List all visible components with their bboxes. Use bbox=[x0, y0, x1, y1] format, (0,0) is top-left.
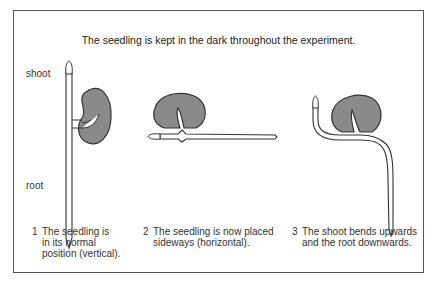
shoot-tip-1 bbox=[66, 61, 73, 74]
step-1-line-1: The seedling is bbox=[42, 226, 109, 237]
step-2-line-1: The seedling is now placed bbox=[153, 226, 274, 237]
step-2-caption: 2 The seedling is now placed sideways (h… bbox=[143, 226, 273, 256]
step-1-line-2: in its normal bbox=[42, 237, 96, 248]
seedling-vertical-illustration bbox=[66, 61, 111, 248]
seed-cotyledon-3 bbox=[332, 95, 381, 132]
stem-vertical bbox=[66, 72, 72, 248]
step-3-caption: 3 The shoot bends upwards and the root d… bbox=[292, 226, 422, 256]
step-1-line-3: position (vertical). bbox=[42, 248, 120, 259]
step-1-caption: 1 The seedling is in its normal position… bbox=[32, 226, 132, 266]
stem-horizontal bbox=[160, 130, 277, 142]
seedling-bent-illustration bbox=[313, 95, 393, 236]
step-3-line-2: and the root downwards. bbox=[302, 237, 412, 248]
step-1-number: 1 bbox=[32, 226, 38, 237]
step-3-line-1: The shoot bends upwards bbox=[302, 226, 417, 237]
step-3-number: 3 bbox=[292, 226, 298, 237]
step-2-line-2: sideways (horizontal). bbox=[153, 237, 250, 248]
seedling-horizontal-illustration bbox=[148, 93, 277, 142]
seed-cotyledon-1 bbox=[79, 89, 112, 144]
shoot-tip-3 bbox=[313, 96, 319, 108]
step-2-number: 2 bbox=[143, 226, 149, 237]
shoot-tip-2 bbox=[148, 134, 160, 140]
seed-cotyledon-2 bbox=[154, 93, 206, 128]
